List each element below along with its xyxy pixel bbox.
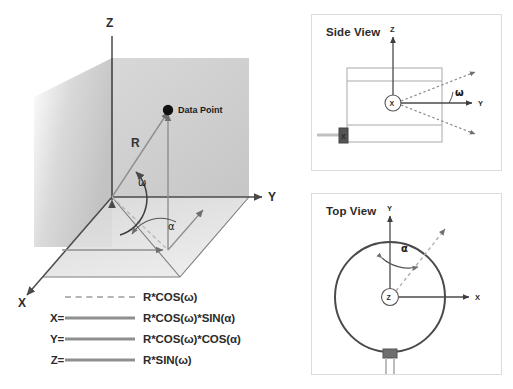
angle-omega-label: ω (138, 177, 146, 188)
device-connector-top (383, 349, 397, 374)
legend-row-y: Y= R*COS(ω)*COS(α) (30, 328, 280, 349)
legend-key-2: Y= (30, 333, 65, 345)
side-view-svg: X Z Y X (312, 15, 501, 170)
top-axis-label-x: X (475, 293, 480, 302)
legend-formula-2: R*COS(ω)*COS(α) (143, 333, 241, 345)
radius-label: R (131, 136, 140, 150)
side-axis-z: Z (390, 25, 395, 103)
side-axis-label-z: Z (390, 25, 395, 34)
top-origin-marker: Z (382, 289, 399, 306)
side-origin-marker: X (385, 95, 401, 111)
top-view-panel: Top View Y X Z (311, 193, 502, 375)
legend-swatch-z (65, 354, 135, 366)
axis-label-x: X (18, 296, 26, 310)
axis-label-z: Z (106, 16, 113, 30)
side-angle-omega: ω (449, 87, 464, 103)
legend-swatch-x (65, 312, 135, 324)
legend-row-z: Z= R*SIN(ω) (30, 349, 280, 370)
device-marker-x: X (341, 133, 346, 140)
legend-swatch-dashed (65, 291, 135, 303)
side-origin-label: X (390, 100, 395, 107)
top-view-svg: Y X Z α (312, 194, 501, 374)
legend-row-rcos: R*COS(ω) (30, 286, 280, 307)
plane-yz (112, 58, 249, 197)
top-direction-ray (396, 229, 445, 291)
device-connector-side: X (317, 128, 348, 143)
side-angle-label: ω (455, 87, 464, 98)
diagram-canvas: Z Y X R (0, 0, 513, 389)
angle-alpha-label: α (168, 221, 175, 232)
top-axis-y: Y (387, 204, 392, 297)
legend-formula-0: R*COS(ω) (143, 291, 197, 303)
legend-key-3: Z= (30, 354, 65, 366)
legend-formula-1: R*COS(ω)*SIN(α) (143, 312, 235, 324)
data-point-label: Data Point (178, 105, 223, 115)
legend-row-x: X= R*COS(ω)*SIN(α) (30, 307, 280, 328)
axis-label-y: Y (268, 190, 276, 204)
top-axis-label-y: Y (387, 204, 392, 213)
side-view-panel: Side View X (311, 14, 502, 171)
side-axis-label-y: Y (478, 99, 483, 108)
shaded-planes (34, 58, 249, 277)
formula-legend: R*COS(ω) X= R*COS(ω)*SIN(α) Y= R*COS(ω)*… (30, 286, 280, 370)
top-origin-label: Z (387, 294, 392, 301)
top-axis-x: X (390, 293, 480, 302)
legend-swatch-y (65, 333, 135, 345)
top-angle-label: α (401, 243, 408, 254)
legend-formula-3: R*SIN(ω) (143, 354, 192, 366)
legend-key-1: X= (30, 312, 65, 324)
